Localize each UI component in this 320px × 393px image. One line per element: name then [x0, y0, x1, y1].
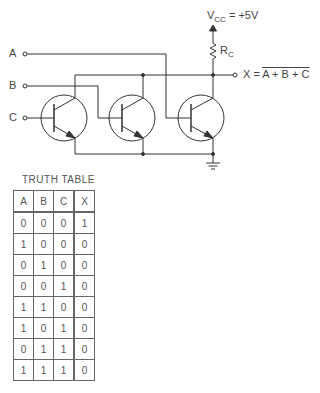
cell: 1: [54, 318, 75, 339]
truth-table-title: TRUTH TABLE: [22, 174, 95, 185]
cell: 0: [34, 212, 54, 234]
header-c: C: [54, 191, 75, 213]
vcc-arrow-icon: [210, 25, 217, 31]
transistor-q1: [41, 95, 87, 141]
cell: 1: [54, 360, 75, 381]
input-a-label: A: [9, 47, 16, 59]
cell: 1: [74, 212, 95, 234]
cell: 0: [14, 255, 34, 276]
cell: 1: [14, 297, 34, 318]
cell: 0: [74, 255, 95, 276]
cell: 0: [34, 318, 54, 339]
cell: 0: [14, 339, 34, 360]
cell: 0: [74, 339, 95, 360]
table-row: 1000: [14, 234, 95, 255]
vcc-label: VCC = +5V: [207, 9, 258, 21]
cell: 0: [14, 276, 34, 297]
nor-gate-circuit: [0, 0, 320, 175]
header-a: A: [14, 191, 34, 213]
cell: 1: [34, 297, 54, 318]
cell: 0: [54, 255, 75, 276]
table-row: 1110: [14, 360, 95, 381]
emitter-rail: [75, 138, 213, 154]
cell: 0: [74, 318, 95, 339]
transistor-q3: [178, 95, 224, 141]
header-b: B: [34, 191, 54, 213]
cell: 1: [14, 318, 34, 339]
cell: 0: [74, 234, 95, 255]
transistor-q2: [109, 95, 155, 141]
output-x-terminal: [233, 73, 237, 77]
table-row: 1010: [14, 318, 95, 339]
cell: 0: [54, 212, 75, 234]
cell: 1: [34, 255, 54, 276]
cell: 1: [54, 276, 75, 297]
cell: 1: [54, 339, 75, 360]
cell: 0: [34, 234, 54, 255]
cell: 1: [34, 339, 54, 360]
ground-icon: [206, 163, 220, 169]
cell: 0: [54, 234, 75, 255]
resistor-rc: [210, 30, 216, 60]
rc-label: RC: [220, 44, 234, 56]
table-row: 0100: [14, 255, 95, 276]
cell: 1: [14, 360, 34, 381]
truth-table: A B C X 0001 1000 0100 0010 1100 1010 01…: [13, 190, 95, 381]
cell: 0: [14, 212, 34, 234]
output-label: X = A + B + C: [243, 68, 309, 80]
cell: 0: [54, 297, 75, 318]
table-header-row: A B C X: [14, 191, 95, 213]
cell: 0: [74, 360, 95, 381]
collector-rail: [75, 75, 233, 98]
cell: 0: [74, 297, 95, 318]
input-b-label: B: [9, 79, 16, 91]
input-b-terminal: [23, 84, 27, 88]
cell: 1: [34, 360, 54, 381]
input-c-terminal: [23, 116, 27, 120]
input-a-terminal: [23, 52, 27, 56]
header-x: X: [74, 191, 95, 213]
input-c-label: C: [9, 111, 17, 123]
table-row: 0001: [14, 212, 95, 234]
cell: 0: [34, 276, 54, 297]
table-row: 0110: [14, 339, 95, 360]
table-row: 0010: [14, 276, 95, 297]
cell: 0: [74, 276, 95, 297]
table-row: 1100: [14, 297, 95, 318]
cell: 1: [14, 234, 34, 255]
